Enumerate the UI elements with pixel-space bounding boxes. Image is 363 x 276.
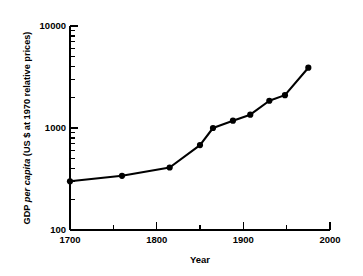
data-point (210, 125, 216, 131)
svg-text:GDP per capita (US $ at 1970 r: GDP per capita (US $ at 1970 relative pr… (22, 32, 32, 225)
data-point (197, 142, 203, 148)
x-tick-label-1800: 1800 (146, 234, 167, 245)
x-tick-label-1700: 1700 (59, 234, 80, 245)
data-point (230, 118, 236, 124)
y-axis-title-italic: per capita (22, 159, 32, 203)
data-point (247, 112, 253, 118)
x-tick-label-2000: 2000 (319, 234, 340, 245)
y-axis-title-prefix: GDP (22, 202, 32, 224)
data-point (119, 173, 125, 179)
x-axis-title: Year (190, 254, 210, 265)
y-tick-label-10000: 10000 (40, 20, 66, 31)
data-point (167, 164, 173, 170)
gdp-per-capita-line-chart: 10000 1000 100 1700 1800 1900 2000 Year … (0, 0, 363, 276)
data-point (305, 65, 311, 71)
chart-figure: 10000 1000 100 1700 1800 1900 2000 Year … (0, 0, 363, 276)
y-axis-title-suffix: (US $ at 1970 relative prices) (22, 32, 32, 159)
y-axis-title: GDP per capita (US $ at 1970 relative pr… (22, 32, 32, 225)
x-tick-label-1900: 1900 (233, 234, 254, 245)
data-point (67, 178, 73, 184)
data-point (282, 92, 288, 98)
data-point (266, 98, 272, 104)
y-tick-label-1000: 1000 (45, 122, 66, 133)
